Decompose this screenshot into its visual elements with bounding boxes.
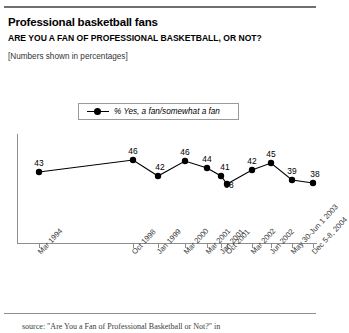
data-point [130, 157, 136, 163]
data-point [268, 160, 274, 166]
data-point [289, 177, 295, 183]
data-point [310, 180, 316, 186]
data-point-label: 42 [247, 156, 256, 166]
data-point [204, 165, 210, 171]
data-point [218, 173, 224, 179]
data-point-label: 38 [224, 180, 233, 190]
data-point-label: 42 [155, 162, 164, 172]
data-point-label: 41 [220, 162, 229, 172]
data-point-label: 43 [34, 158, 43, 168]
data-point-label: 44 [202, 154, 211, 164]
data-point [36, 169, 42, 175]
data-point [249, 167, 255, 173]
data-point-label: 46 [180, 147, 189, 157]
data-point [155, 173, 161, 179]
data-point-label: 45 [266, 149, 275, 159]
data-point-label: 39 [287, 166, 296, 176]
data-point [182, 158, 188, 164]
series-points [36, 157, 316, 187]
footer-divider [4, 313, 316, 314]
data-point-label: 46 [128, 146, 137, 156]
data-point-label: 38 [310, 169, 319, 179]
source-note: source: "Are You a Fan of Professional B… [22, 322, 220, 331]
